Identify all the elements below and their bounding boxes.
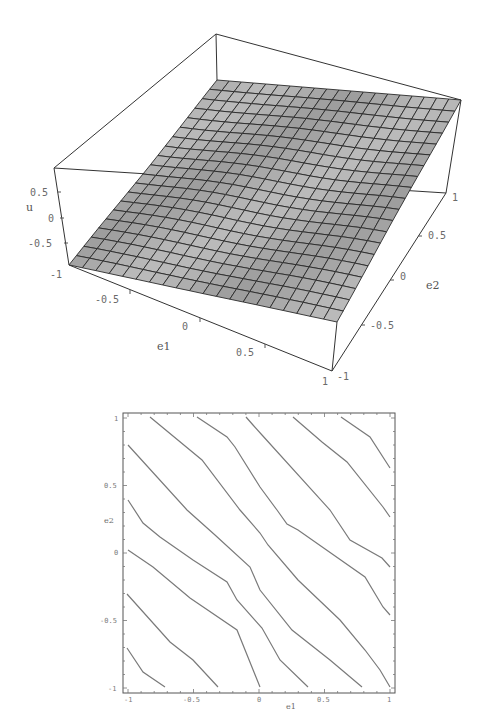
e1-tick-0.5: 0.5 <box>236 347 254 358</box>
contour-line <box>128 445 362 687</box>
z-tick-0: 0 <box>48 213 54 224</box>
z-axis-label: u <box>26 201 33 214</box>
e1-tick-neg0.5: -0.5 <box>95 294 119 305</box>
contour-x-tick-0.5: 0.5 <box>317 696 330 704</box>
contour-line <box>127 594 218 687</box>
e2-tick-0.5: 0.5 <box>428 230 446 241</box>
e2-tick-0: 0 <box>400 271 406 282</box>
contour-lines <box>127 417 390 687</box>
contour-ticks <box>123 413 395 693</box>
contour-line <box>150 417 390 687</box>
contour-line <box>246 417 390 567</box>
e1-tick-1: 1 <box>322 376 328 387</box>
contour-frame <box>123 413 395 693</box>
e2-tick-1: 1 <box>452 192 458 203</box>
e1-tick-0: 0 <box>182 321 188 332</box>
contour-y-tick-0.5: 0.5 <box>104 482 117 490</box>
contour-y-tick-neg1: -1 <box>108 685 116 693</box>
contour-x-tick-0: 0 <box>257 696 261 704</box>
z-tick-neg1: -1 <box>50 269 62 280</box>
contour-y-tick-1: 1 <box>114 415 118 423</box>
contour-y-axis-label: e2 <box>104 516 114 525</box>
e2-tick-neg1: -1 <box>337 371 349 382</box>
contour-line <box>341 417 390 468</box>
surface-mesh <box>69 80 461 322</box>
contour-x-tick-neg1: -1 <box>124 696 132 704</box>
e2-tick-neg0.5: -0.5 <box>370 320 394 331</box>
surface-plot-3d: 0.5 u 0 -0.5 -1 -0.5 0 e1 0.5 1 -1 -0.5 … <box>0 0 482 400</box>
contour-line <box>293 417 390 517</box>
contour-y-tick-neg0.5: -0.5 <box>100 617 117 625</box>
contour-line <box>128 550 260 687</box>
contour-x-axis-label: e1 <box>286 702 296 711</box>
z-tick-neg0.5: -0.5 <box>28 238 52 249</box>
z-tick-0.5: 0.5 <box>30 187 48 198</box>
contour-y-tick-0: 0 <box>114 549 118 557</box>
contour-line <box>128 500 308 687</box>
e2-axis-label: e2 <box>426 279 440 292</box>
contour-line <box>197 417 390 615</box>
contour-x-tick-neg0.5: -0.5 <box>183 696 200 704</box>
contour-line <box>127 648 165 687</box>
e1-axis-label: e1 <box>157 340 171 353</box>
contour-x-tick-1: 1 <box>387 696 391 704</box>
